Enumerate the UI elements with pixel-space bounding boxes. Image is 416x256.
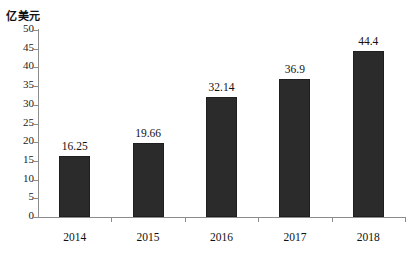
y-axis-tick-label: 15 (23, 154, 34, 165)
y-axis-tick-label: 35 (23, 79, 34, 90)
bar-chart: 亿美元 05101520253035404550 16.2519.6632.14… (0, 0, 416, 256)
y-axis-tick-label: 45 (23, 42, 34, 53)
y-axis-tick-label: 10 (23, 173, 34, 184)
plot-area (38, 30, 405, 217)
y-axis-unit-label: 亿美元 (6, 7, 41, 23)
x-axis-tick-mark (332, 218, 333, 222)
y-axis-tick-label: 40 (23, 60, 34, 71)
x-axis-tick-mark (405, 218, 406, 222)
y-axis-tick-label: 0 (29, 210, 35, 221)
bar-value-label: 16.25 (62, 140, 88, 152)
bar[interactable] (59, 156, 90, 217)
y-axis-tick-label: 25 (23, 117, 34, 128)
y-axis-tick-label: 5 (29, 191, 35, 202)
y-axis-tick-label: 30 (23, 98, 34, 109)
x-axis-tick-mark (258, 218, 259, 222)
x-axis-line (38, 217, 406, 218)
bar[interactable] (133, 143, 164, 217)
x-axis-category-label: 2017 (283, 231, 306, 243)
bar-value-label: 44.4 (358, 35, 378, 47)
y-axis-tick-label: 20 (23, 135, 34, 146)
bar[interactable] (279, 79, 310, 217)
bar-value-label: 19.66 (135, 127, 161, 139)
bar[interactable] (206, 97, 237, 217)
x-axis-tick-mark (185, 218, 186, 222)
y-axis-tick-label: 50 (23, 23, 34, 34)
x-axis-category-label: 2014 (63, 231, 86, 243)
y-axis-tick-mark (33, 217, 38, 218)
x-axis-category-label: 2015 (137, 231, 160, 243)
x-axis-tick-mark (111, 218, 112, 222)
bar[interactable] (353, 51, 384, 217)
x-axis-category-label: 2018 (357, 231, 380, 243)
bar-value-label: 36.9 (285, 63, 305, 75)
x-axis-category-label: 2016 (210, 231, 233, 243)
bar-value-label: 32.14 (209, 81, 235, 93)
